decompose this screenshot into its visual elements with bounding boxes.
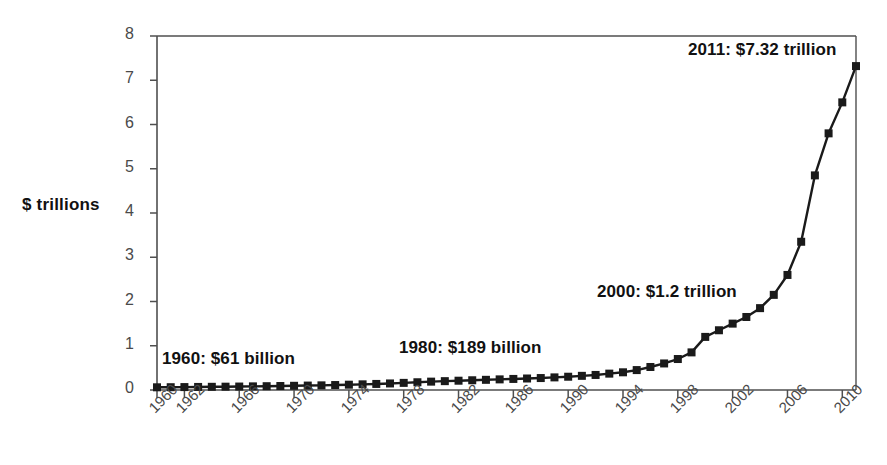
annotation-2011: 2011: $7.32 trillion xyxy=(688,40,836,60)
x-axis-tick-label: 1982 xyxy=(447,380,483,416)
x-axis-tick-label: 1966 xyxy=(227,380,263,416)
x-axis-tick-label: 1978 xyxy=(392,380,428,416)
annotation-2000: 2000: $1.2 trillion xyxy=(597,282,737,302)
x-axis-tick-label: 2006 xyxy=(775,380,811,416)
x-axis-tick-label: 2002 xyxy=(721,380,757,416)
x-axis-tick-labels: 1960196219661970197419781982198619901994… xyxy=(0,0,887,465)
x-axis-tick-label: 1960 xyxy=(145,380,181,416)
x-axis-tick-label: 1962 xyxy=(172,380,208,416)
annotation-1980: 1980: $189 billion xyxy=(399,338,542,358)
x-axis-tick-label: 2010 xyxy=(830,380,866,416)
x-axis-tick-label: 1990 xyxy=(556,380,592,416)
annotation-1960: 1960: $61 billion xyxy=(162,349,295,369)
x-axis-tick-label: 1998 xyxy=(666,380,702,416)
x-axis-tick-label: 1970 xyxy=(282,380,318,416)
x-axis-tick-label: 1974 xyxy=(337,380,373,416)
chart-figure: $ trillions 012345678 196019621966197019… xyxy=(0,0,887,465)
x-axis-tick-label: 1986 xyxy=(501,380,537,416)
x-axis-tick-label: 1994 xyxy=(611,380,647,416)
